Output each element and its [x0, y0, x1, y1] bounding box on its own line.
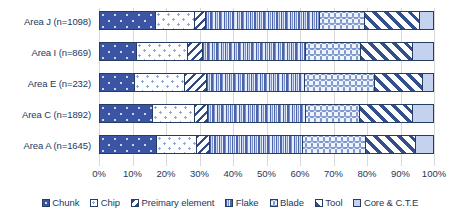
bar-segment-core-c-t-e[interactable] — [413, 105, 433, 122]
bar-segment-preimary-element[interactable] — [188, 43, 203, 60]
bar-segment-chunk[interactable] — [100, 74, 135, 91]
legend-item[interactable]: Flake — [225, 197, 258, 208]
bar-segment-preimary-element[interactable] — [197, 136, 210, 153]
legend-label: Preimary element — [141, 197, 214, 208]
legend-swatch-icon — [42, 199, 50, 207]
bar-segment-blade[interactable] — [306, 43, 361, 60]
legend-item[interactable]: Chip — [90, 197, 120, 208]
category-axis-labels: Area J (n=1098)Area I (n=869)Area E (n=2… — [0, 8, 95, 166]
legend-label: Blade — [280, 197, 304, 208]
legend-label: Chip — [101, 197, 120, 208]
bar-row[interactable] — [99, 73, 434, 92]
legend-item[interactable]: Blade — [270, 197, 304, 208]
plot-area — [99, 8, 434, 166]
x-axis-tick: 20% — [156, 168, 175, 179]
legend-label: Chunk — [52, 197, 79, 208]
x-axis-tick: 100% — [422, 168, 446, 179]
category-label: Area A (n=1645) — [0, 140, 91, 151]
x-axis-tick: 90% — [391, 168, 410, 179]
bar-row[interactable] — [99, 135, 434, 154]
legend-label: Flake — [236, 197, 259, 208]
bar-segment-chunk[interactable] — [100, 12, 156, 29]
x-axis-tick: 10% — [123, 168, 142, 179]
bar-segment-flake[interactable] — [208, 105, 306, 122]
bar-segment-blade[interactable] — [303, 136, 366, 153]
bar-segment-core-c-t-e[interactable] — [420, 12, 433, 29]
bar-segment-chip[interactable] — [157, 136, 197, 153]
x-axis-tick: 70% — [324, 168, 343, 179]
bar-segment-chunk[interactable] — [100, 43, 137, 60]
legend-label: Tool — [325, 197, 342, 208]
category-label: Area J (n=1098) — [0, 16, 91, 27]
x-axis-tick: 80% — [357, 168, 376, 179]
category-label: Area E (n=232) — [0, 78, 91, 89]
bar-segment-chip[interactable] — [156, 12, 195, 29]
legend-item[interactable]: Preimary element — [131, 197, 214, 208]
bar-segment-blade[interactable] — [306, 105, 359, 122]
bar-segment-flake[interactable] — [206, 12, 320, 29]
bar-segment-tool[interactable] — [375, 74, 423, 91]
bar-row[interactable] — [99, 104, 434, 123]
bar-segment-flake[interactable] — [203, 43, 306, 60]
bar-segment-preimary-element[interactable] — [195, 105, 208, 122]
x-axis-tick: 60% — [290, 168, 309, 179]
x-axis-tick: 0% — [92, 168, 106, 179]
bar-segment-flake[interactable] — [207, 74, 305, 91]
gridline — [434, 8, 435, 166]
bar-segment-chip[interactable] — [153, 105, 195, 122]
legend-item[interactable]: Tool — [315, 197, 343, 208]
category-label: Area C (n=1892) — [0, 109, 91, 120]
legend-swatch-icon — [270, 199, 278, 207]
legend-label: Core & C.T.E — [364, 197, 418, 208]
bar-segment-chip[interactable] — [135, 74, 185, 91]
legend-swatch-icon — [90, 199, 98, 207]
legend-swatch-icon — [353, 199, 361, 207]
bar-segment-preimary-element[interactable] — [185, 74, 207, 91]
bar-segment-tool[interactable] — [360, 105, 413, 122]
bar-segment-blade[interactable] — [305, 74, 375, 91]
bar-row[interactable] — [99, 42, 434, 61]
x-axis-tick-labels: 0%10%20%30%40%50%60%70%80%90%100% — [99, 168, 434, 184]
bar-segment-blade[interactable] — [320, 12, 365, 29]
bar-segment-tool[interactable] — [365, 12, 420, 29]
bar-segment-tool[interactable] — [366, 136, 416, 153]
legend-swatch-icon — [225, 199, 233, 207]
bar-row[interactable] — [99, 11, 434, 30]
x-axis-tick: 40% — [223, 168, 242, 179]
bar-segment-chunk[interactable] — [100, 136, 157, 153]
bar-segment-chip[interactable] — [137, 43, 189, 60]
bar-segment-tool[interactable] — [361, 43, 413, 60]
chart-legend: ChunkChipPreimary elementFlakeBladeToolC… — [0, 197, 460, 208]
x-axis-tick: 50% — [257, 168, 276, 179]
stacked-bar-chart: Area J (n=1098)Area I (n=869)Area E (n=2… — [0, 0, 460, 222]
category-label: Area I (n=869) — [0, 47, 91, 58]
bar-segment-core-c-t-e[interactable] — [413, 43, 433, 60]
legend-swatch-icon — [315, 199, 323, 207]
bar-segment-preimary-element[interactable] — [195, 12, 206, 29]
legend-swatch-icon — [131, 199, 139, 207]
bar-segment-flake[interactable] — [210, 136, 303, 153]
bar-segment-core-c-t-e[interactable] — [423, 74, 433, 91]
bar-segment-core-c-t-e[interactable] — [416, 136, 433, 153]
bar-segment-chunk[interactable] — [100, 105, 153, 122]
legend-item[interactable]: Chunk — [42, 197, 79, 208]
legend-item[interactable]: Core & C.T.E — [353, 197, 418, 208]
x-axis-tick: 30% — [190, 168, 209, 179]
